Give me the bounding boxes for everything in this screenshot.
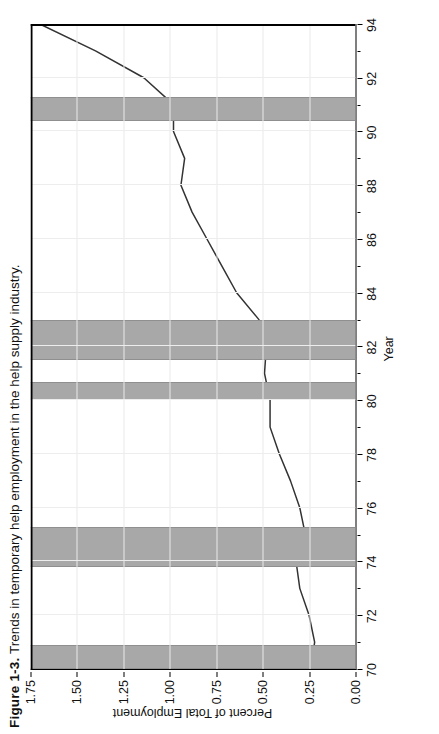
x-tick-label: 84 xyxy=(364,287,378,301)
gridline-horizontal xyxy=(76,24,77,669)
x-tick xyxy=(357,185,362,186)
x-minor-tick xyxy=(357,51,360,52)
y-tick xyxy=(355,672,356,677)
y-tick xyxy=(30,672,31,677)
x-tick xyxy=(357,78,362,79)
x-tick-label: 94 xyxy=(364,18,378,32)
y-tick-label: 0.00 xyxy=(348,680,362,716)
gridline-horizontal xyxy=(216,24,217,669)
plot-top-frame xyxy=(30,24,32,669)
y-tick xyxy=(76,672,77,677)
x-tick-label: 72 xyxy=(364,609,378,623)
gridline-horizontal xyxy=(309,24,310,669)
x-tick xyxy=(357,400,362,401)
gridline-vertical xyxy=(30,561,355,562)
gridline-vertical xyxy=(30,131,355,132)
x-minor-tick xyxy=(357,535,360,536)
x-tick xyxy=(357,562,362,563)
gridline-vertical xyxy=(30,238,355,239)
x-tick-label: 82 xyxy=(364,341,378,355)
x-minor-tick xyxy=(357,320,360,321)
gridline-horizontal xyxy=(262,24,263,669)
x-tick-label: 88 xyxy=(364,179,378,193)
x-tick-label: 86 xyxy=(364,233,378,247)
y-tick xyxy=(216,672,217,677)
x-tick-label: 78 xyxy=(364,448,378,462)
x-minor-tick xyxy=(357,373,360,374)
x-axis-title: Year xyxy=(381,336,395,361)
gridline-vertical xyxy=(30,184,355,185)
plot-right-frame xyxy=(30,24,355,26)
plot-area xyxy=(30,24,356,670)
figure-page: Figure 1-3. Trends in temporary help emp… xyxy=(0,0,439,734)
x-tick xyxy=(357,615,362,616)
x-tick-label: 74 xyxy=(364,556,378,570)
x-minor-tick xyxy=(357,158,360,159)
recession-band xyxy=(30,320,355,360)
gridline-vertical xyxy=(30,453,355,454)
recession-band xyxy=(30,382,355,400)
x-tick xyxy=(357,508,362,509)
gridline-vertical xyxy=(30,77,355,78)
gridline-horizontal xyxy=(169,24,170,669)
y-axis-title: Percent of Total Employment xyxy=(107,706,277,720)
y-tick xyxy=(169,672,170,677)
x-minor-tick xyxy=(357,105,360,106)
gridline-vertical xyxy=(30,292,355,293)
x-tick-label: 80 xyxy=(364,394,378,408)
y-tick-label: 0.25 xyxy=(302,680,316,716)
x-tick xyxy=(357,132,362,133)
x-tick-label: 92 xyxy=(364,72,378,86)
plot-inner xyxy=(30,24,355,669)
x-tick-label: 90 xyxy=(364,126,378,140)
figure-number: Figure 1-3. xyxy=(6,658,21,728)
gridline-vertical xyxy=(30,614,355,615)
figure-caption-text: Trends in temporary help employment in t… xyxy=(6,265,21,654)
x-tick xyxy=(357,454,362,455)
x-minor-tick xyxy=(357,588,360,589)
x-minor-tick xyxy=(357,481,360,482)
x-tick xyxy=(357,669,362,670)
figure-stage: Figure 1-3. Trends in temporary help emp… xyxy=(0,0,439,734)
gridline-vertical xyxy=(30,507,355,508)
x-tick xyxy=(357,347,362,348)
gridline-horizontal xyxy=(123,24,124,669)
figure-caption: Figure 1-3. Trends in temporary help emp… xyxy=(6,28,22,728)
x-tick xyxy=(357,24,362,25)
x-minor-tick xyxy=(357,427,360,428)
recession-band xyxy=(30,97,355,121)
x-minor-tick xyxy=(357,266,360,267)
x-tick xyxy=(357,293,362,294)
x-tick-label: 70 xyxy=(364,663,378,677)
gridline-vertical xyxy=(30,399,355,400)
y-tick xyxy=(309,672,310,677)
y-tick-label: 1.50 xyxy=(69,680,83,716)
recession-band xyxy=(30,646,355,670)
gridline-vertical xyxy=(30,346,355,347)
y-tick-label: 1.75 xyxy=(23,680,37,716)
x-tick xyxy=(357,239,362,240)
x-tick-label: 76 xyxy=(364,502,378,516)
y-tick xyxy=(262,672,263,677)
x-minor-tick xyxy=(357,642,360,643)
y-tick xyxy=(123,672,124,677)
x-minor-tick xyxy=(357,212,360,213)
